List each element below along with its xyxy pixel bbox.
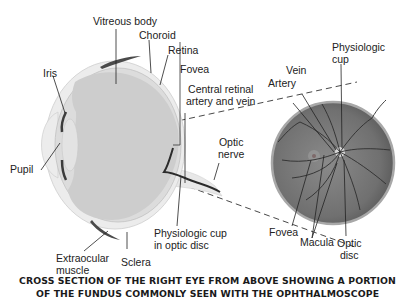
label-line-2: in optic disc: [154, 239, 227, 251]
label-line-2: cup: [332, 53, 385, 65]
label-optic-disc: Optic disc: [337, 237, 362, 261]
figure-caption: CROSS SECTION OF THE RIGHT EYE FROM ABOV…: [0, 274, 415, 300]
label-sclera: Sclera: [121, 256, 151, 268]
label-retina: Retina: [168, 44, 198, 56]
caption-line-1: CROSS SECTION OF THE RIGHT EYE FROM ABOV…: [0, 274, 415, 287]
label-pupil: Pupil: [10, 163, 33, 175]
label-line-2: artery and vein: [186, 95, 255, 107]
label-line-1: Physiologic: [332, 41, 385, 53]
label-fovea-fundus: Fovea: [269, 226, 298, 238]
label-artery: Artery: [268, 77, 296, 89]
label-physiologic-cup: Physiologic cup: [332, 41, 385, 65]
label-line-1: Optic: [337, 237, 362, 249]
label-central-retinal-artery-vein: Central retinal artery and vein: [186, 83, 255, 107]
eye-diagram: Vitreous body Choroid Retina Fovea Iris …: [0, 0, 415, 305]
fovea-spot: [312, 154, 316, 158]
label-iris: Iris: [43, 67, 57, 79]
label-line-1: Extraocular: [56, 252, 109, 264]
label-macula: Macula: [300, 236, 334, 248]
label-fovea-cross-section: Fovea: [180, 63, 209, 75]
label-line-1: Physiologic cup: [154, 227, 227, 239]
label-optic-nerve: Optic nerve: [218, 136, 244, 160]
label-extraocular-muscle: Extraocular muscle: [56, 252, 109, 276]
label-line-1: Central retinal: [186, 83, 255, 95]
fundus-view: [272, 102, 394, 224]
label-physiologic-cup-in-optic-disc: Physiologic cup in optic disc: [154, 227, 227, 251]
label-choroid: Choroid: [139, 29, 176, 41]
label-vitreous-body: Vitreous body: [93, 15, 157, 27]
label-line-2: nerve: [218, 148, 244, 160]
label-vein: Vein: [286, 64, 306, 76]
lens-shape: [62, 119, 78, 171]
label-line-2: disc: [337, 249, 362, 261]
caption-line-2: OF THE FUNDUS COMMONLY SEEN WITH THE OPH…: [0, 287, 415, 300]
label-line-1: Optic: [218, 136, 244, 148]
